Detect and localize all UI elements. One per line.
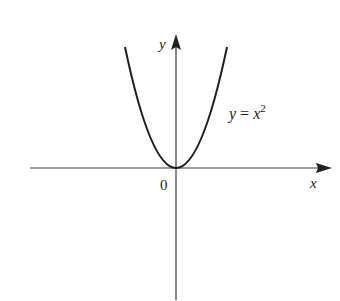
parabola-diagram: y x 0 y = x2 (0, 0, 340, 301)
y-axis-label: y (157, 36, 166, 52)
x-axis-label: x (309, 175, 317, 191)
origin-label: 0 (160, 177, 168, 193)
equation-base: x (252, 105, 260, 122)
equation-label: y = x2 (227, 102, 266, 123)
equation-exponent: 2 (260, 102, 266, 114)
equation-equals: = (236, 105, 253, 122)
x-axis-arrow-icon (316, 163, 332, 173)
